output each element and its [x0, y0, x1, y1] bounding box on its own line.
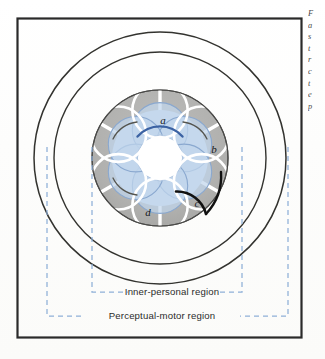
cell-label-b: b [211, 143, 217, 155]
perceptual-motor-label: Perceptual-motor region [109, 310, 215, 321]
caption-line-9: p [308, 101, 325, 113]
caption-line-6: c [308, 66, 325, 78]
cell-label-c: c [195, 197, 200, 209]
caption-line-4: t [308, 43, 325, 55]
caption-line-2: a [308, 20, 325, 32]
caption-line-8: e [308, 89, 325, 101]
rosette: a b c d [91, 83, 230, 234]
caption-line-5: r [308, 54, 325, 66]
diagram-canvas: a b c d Inner-personal region Perceptual… [0, 0, 325, 359]
caption-line-7: t [308, 78, 325, 90]
inner-personal-label: Inner-personal region [125, 286, 219, 297]
caption-line-3: s [308, 31, 325, 43]
figure-root: a b c d Inner-personal region Perceptual… [0, 0, 325, 359]
cell-label-d: d [145, 206, 151, 218]
margin-caption: F a s t r c t e p [308, 8, 325, 112]
cell-label-a: a [160, 114, 166, 126]
caption-line-1: F [308, 8, 325, 20]
